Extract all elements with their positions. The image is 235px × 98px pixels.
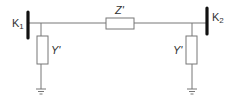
- shunt-right-label: Y': [173, 45, 182, 56]
- node-label-k2: K2: [212, 12, 224, 25]
- shunt-left-box: [37, 36, 48, 64]
- node-k2-subscript: 2: [219, 16, 223, 25]
- shunt-right-box: [186, 36, 197, 64]
- series-impedance-label: Z': [115, 5, 124, 16]
- node-k1-subscript: 1: [19, 22, 23, 31]
- shunt-left-label: Y': [51, 45, 60, 56]
- node-label-k1: K1: [12, 18, 24, 31]
- ground-icon: [36, 89, 46, 94]
- series-impedance-box: [106, 18, 134, 29]
- ground-icon: [187, 89, 197, 94]
